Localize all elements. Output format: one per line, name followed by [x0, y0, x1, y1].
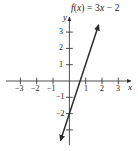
y-axis-label: y: [63, 13, 67, 22]
coordinate-plane-svg: [0, 0, 138, 151]
y-tick-label-2: 2: [59, 44, 63, 52]
x-tick-label-neg3: −3: [15, 85, 24, 93]
graph-figure: f(x) = 3x − 2 y x −3 −2 −1 1 2 3 3 2 1 −…: [0, 0, 138, 151]
x-tick-label-1: 1: [84, 85, 88, 93]
x-tick-label-3: 3: [116, 85, 120, 93]
fn-intercept: 2: [115, 3, 120, 13]
y-tick-label-neg2: −2: [56, 110, 65, 118]
x-axis-group: [6, 78, 131, 85]
x-tick-label-2: 2: [100, 85, 104, 93]
x-axis-label: x: [128, 83, 132, 92]
y-tick-label-3: 3: [59, 28, 63, 36]
fn-minus: −: [104, 3, 114, 13]
x-tick-label-neg2: −2: [31, 85, 40, 93]
fn-equals: =: [85, 3, 95, 13]
y-tick-label-neg1: −1: [56, 93, 65, 101]
y-tick-label-1: 1: [59, 61, 63, 69]
function-line-f-of-x: [61, 25, 99, 141]
x-tick-label-neg1: −1: [47, 85, 56, 93]
function-equation-label: f(x) = 3x − 2: [71, 3, 120, 13]
function-line-group: [61, 25, 99, 141]
